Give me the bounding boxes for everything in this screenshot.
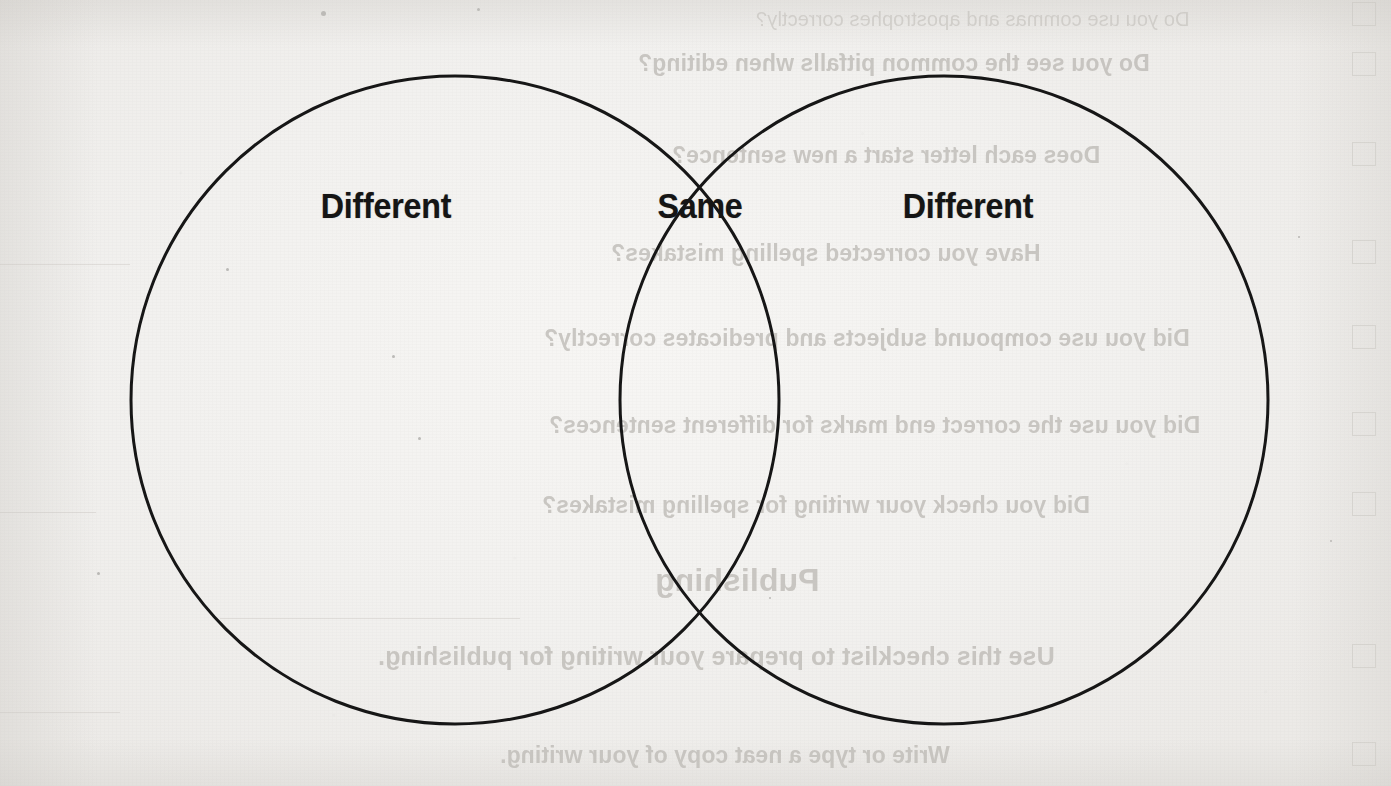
venn-diagram bbox=[0, 0, 1391, 786]
venn-label-middle-same: Same bbox=[657, 186, 742, 226]
right-circle bbox=[620, 76, 1268, 724]
venn-label-right-different: Different bbox=[903, 186, 1034, 226]
venn-label-left-different: Different bbox=[321, 186, 452, 226]
scanned-page: Do you use commas and apostrophes correc… bbox=[0, 0, 1391, 786]
left-circle bbox=[131, 76, 779, 724]
